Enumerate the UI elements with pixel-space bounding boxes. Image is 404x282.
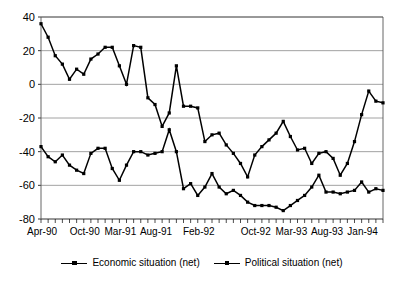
data-point-marker xyxy=(210,172,213,175)
data-point-marker xyxy=(132,150,135,153)
data-point-marker xyxy=(118,179,121,182)
data-point-marker xyxy=(139,46,142,49)
data-point-marker xyxy=(275,206,278,209)
data-point-marker xyxy=(317,152,320,155)
data-point-marker xyxy=(118,64,121,67)
data-point-marker xyxy=(225,143,228,146)
data-point-marker xyxy=(82,172,85,175)
data-point-marker xyxy=(96,147,99,150)
data-point-marker xyxy=(111,167,114,170)
y-axis-tick-label: 20 xyxy=(23,45,35,57)
data-point-marker xyxy=(310,185,313,188)
data-point-marker xyxy=(225,192,228,195)
data-point-marker xyxy=(168,111,171,114)
data-point-marker xyxy=(367,89,370,92)
x-axis-tick-label: Aug-91 xyxy=(140,226,173,237)
y-axis-tick-label: -20 xyxy=(19,112,35,124)
data-point-marker xyxy=(296,148,299,151)
data-point-marker xyxy=(353,189,356,192)
data-point-marker xyxy=(360,180,363,183)
data-point-marker xyxy=(189,105,192,108)
data-point-marker xyxy=(104,46,107,49)
data-point-marker xyxy=(182,187,185,190)
data-point-marker xyxy=(82,73,85,76)
x-axis-tick-label: Jan-94 xyxy=(347,226,378,237)
data-point-marker xyxy=(61,63,64,66)
data-point-marker xyxy=(196,194,199,197)
data-point-marker xyxy=(125,83,128,86)
data-point-marker xyxy=(139,150,142,153)
data-point-marker xyxy=(339,174,342,177)
data-point-marker xyxy=(275,132,278,135)
data-point-marker xyxy=(161,125,164,128)
x-axis-tick-label: Aug-93 xyxy=(311,226,344,237)
x-axis-tick-label: Apr-90 xyxy=(27,226,57,237)
data-point-marker xyxy=(153,103,156,106)
data-point-marker xyxy=(218,185,221,188)
data-point-marker xyxy=(175,64,178,67)
data-point-marker xyxy=(132,44,135,47)
data-point-marker xyxy=(54,54,57,57)
data-point-marker xyxy=(267,204,270,207)
data-point-marker xyxy=(239,194,242,197)
data-point-marker xyxy=(232,152,235,155)
data-point-marker xyxy=(75,169,78,172)
data-point-marker xyxy=(61,153,64,156)
legend-item-political: Political situation (net) xyxy=(214,258,343,268)
chart-legend: Economic situation (net) Political situa… xyxy=(0,252,404,274)
data-point-marker xyxy=(381,189,384,192)
data-point-marker xyxy=(232,189,235,192)
data-point-marker xyxy=(253,153,256,156)
data-point-marker xyxy=(189,182,192,185)
data-point-marker xyxy=(360,113,363,116)
data-point-marker xyxy=(246,175,249,178)
data-point-marker xyxy=(111,46,114,49)
data-point-marker xyxy=(175,150,178,153)
data-point-marker xyxy=(267,138,270,141)
data-point-marker xyxy=(282,120,285,123)
data-point-marker xyxy=(153,152,156,155)
data-point-marker xyxy=(381,101,384,104)
data-point-marker xyxy=(196,106,199,109)
data-point-marker xyxy=(182,105,185,108)
data-point-marker xyxy=(161,150,164,153)
data-point-marker xyxy=(324,150,327,153)
legend-label-economic: Economic situation (net) xyxy=(92,258,199,268)
data-point-marker xyxy=(89,57,92,60)
data-point-marker xyxy=(54,160,57,163)
x-axis-tick-label: Mar-93 xyxy=(276,226,308,237)
data-point-marker xyxy=(374,187,377,190)
data-point-marker xyxy=(346,162,349,165)
plot-area: 40200-20-40-60-80Apr-90Oct-90Mar-91Aug-9… xyxy=(0,0,404,245)
x-axis-tick-label: Oct-92 xyxy=(241,226,271,237)
y-axis-tick-label: -60 xyxy=(19,179,35,191)
data-point-marker xyxy=(289,135,292,138)
x-axis-tick-label: Oct-90 xyxy=(70,226,100,237)
data-point-marker xyxy=(310,162,313,165)
data-point-marker xyxy=(324,190,327,193)
data-point-marker xyxy=(203,185,206,188)
data-point-marker xyxy=(146,96,149,99)
data-point-marker xyxy=(89,152,92,155)
data-point-marker xyxy=(68,164,71,167)
data-point-marker xyxy=(96,52,99,55)
data-point-marker xyxy=(68,78,71,81)
data-point-marker xyxy=(296,199,299,202)
data-point-marker xyxy=(282,209,285,212)
y-axis-tick-label: 40 xyxy=(23,11,35,23)
data-point-marker xyxy=(289,204,292,207)
data-point-marker xyxy=(260,145,263,148)
data-point-marker xyxy=(346,190,349,193)
data-point-marker xyxy=(104,147,107,150)
data-point-marker xyxy=(374,100,377,103)
data-point-marker xyxy=(125,164,128,167)
data-point-marker xyxy=(260,204,263,207)
chart-figure: 40200-20-40-60-80Apr-90Oct-90Mar-91Aug-9… xyxy=(0,0,404,282)
x-axis-tick-label: Feb-92 xyxy=(183,226,215,237)
data-point-marker xyxy=(239,162,242,165)
data-point-marker xyxy=(47,36,50,39)
data-point-marker xyxy=(218,132,221,135)
data-point-marker xyxy=(332,190,335,193)
data-point-marker xyxy=(367,190,370,193)
data-point-marker xyxy=(210,133,213,136)
